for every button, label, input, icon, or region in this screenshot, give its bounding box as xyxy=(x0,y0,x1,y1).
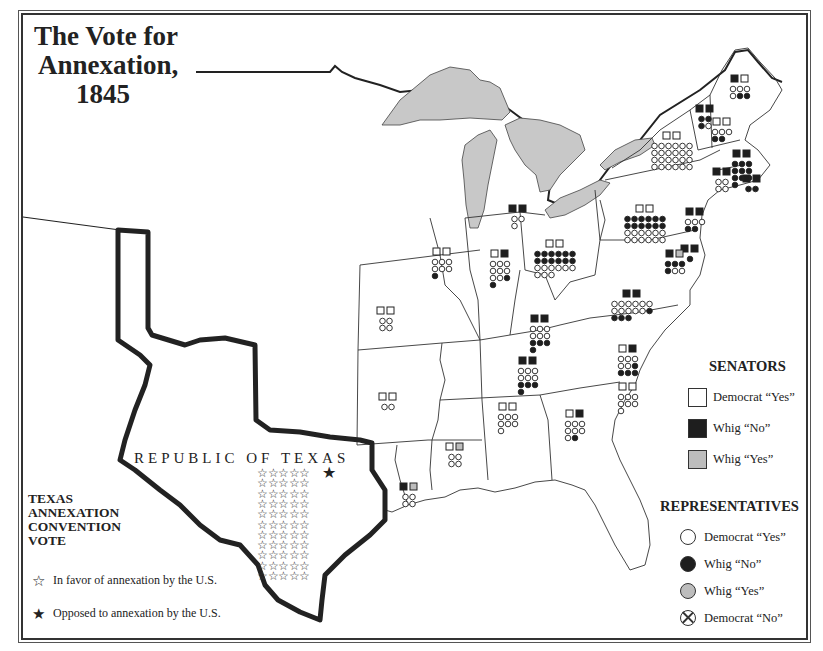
legend-opposed-label: Opposed to annexation by the U.S. xyxy=(53,606,221,621)
state-votes-north-carolina xyxy=(618,345,638,376)
representative-circle xyxy=(692,226,698,232)
representative-circle xyxy=(572,428,578,434)
senator-square xyxy=(741,75,748,82)
senator-square xyxy=(456,443,463,450)
representative-circle xyxy=(549,272,555,278)
state-votes-connecticut xyxy=(713,168,730,192)
representative-circle xyxy=(625,223,631,229)
representative-circle xyxy=(544,340,550,346)
tx-legend-line-2: ANNEXATION xyxy=(28,506,121,520)
representative-circle xyxy=(537,333,543,339)
representative-circle xyxy=(439,259,445,265)
representative-circle xyxy=(572,421,578,427)
crossed-circle-icon xyxy=(680,610,696,626)
representative-circle xyxy=(619,301,625,307)
representative-circle xyxy=(535,251,541,257)
state-votes-pennsylvania xyxy=(625,205,666,243)
legend-opposed: ★ Opposed to annexation by the U.S. xyxy=(32,606,221,621)
representative-circle xyxy=(712,129,718,135)
representative-circle xyxy=(744,86,750,92)
representative-circle xyxy=(535,258,541,264)
representative-circle xyxy=(490,268,496,274)
representative-circle xyxy=(699,123,705,129)
representative-circle xyxy=(537,340,543,346)
senator-square xyxy=(619,383,626,390)
representative-circle xyxy=(387,318,393,324)
representative-circle xyxy=(625,356,631,362)
black-square-icon xyxy=(688,419,707,438)
senator-square xyxy=(410,483,417,490)
representative-circle xyxy=(512,414,518,420)
tx-legend-line-1: TEXAS xyxy=(28,492,121,506)
representative-circle xyxy=(680,164,686,170)
senator-legend-dem-yes: Democrat “Yes” xyxy=(688,388,795,407)
senator-square xyxy=(387,307,394,314)
representative-circle xyxy=(660,230,666,236)
representative-circle xyxy=(730,86,736,92)
representative-circle xyxy=(490,282,496,288)
representative-circle xyxy=(542,272,548,278)
representative-circle xyxy=(632,363,638,369)
representative-circle xyxy=(653,237,659,243)
senator-square xyxy=(546,240,553,247)
representative-circle xyxy=(530,347,536,353)
senator-square xyxy=(529,357,536,364)
representative-circle xyxy=(726,129,732,135)
representative-circle xyxy=(410,501,416,507)
senator-square xyxy=(723,118,730,125)
representative-circle xyxy=(665,261,671,267)
map-title: The Vote for Annexation, 1845 xyxy=(34,22,178,109)
state-votes-indiana xyxy=(490,250,510,288)
state-votes-new-hampshire xyxy=(712,118,732,142)
senator-square xyxy=(691,245,698,252)
us-states xyxy=(357,48,782,570)
representative-circle xyxy=(446,266,452,272)
senator-square xyxy=(433,248,440,255)
gray-square-icon xyxy=(688,450,707,469)
representative-circle xyxy=(646,223,652,229)
representative-circle xyxy=(565,428,571,434)
representative-circle xyxy=(542,265,548,271)
representative-circle xyxy=(380,318,386,324)
representative-circle xyxy=(612,308,618,314)
representative-circle xyxy=(525,382,531,388)
state-votes-arkansas xyxy=(379,393,396,410)
senator-square xyxy=(666,250,673,257)
representative-circle xyxy=(497,268,503,274)
representative-circle xyxy=(505,421,511,427)
representative-circle xyxy=(518,389,524,395)
representative-circle xyxy=(639,223,645,229)
state-votes-illinois xyxy=(432,248,452,279)
representative-circle xyxy=(625,216,631,222)
senator-square xyxy=(646,205,653,212)
representative-circle xyxy=(498,421,504,427)
representative-circle xyxy=(410,494,416,500)
title-line-3: 1845 xyxy=(34,80,178,109)
representative-circle xyxy=(666,164,672,170)
representative-circle xyxy=(626,301,632,307)
representative-circle xyxy=(737,93,743,99)
state-votes-vermont xyxy=(696,105,713,129)
senator-square xyxy=(723,168,730,175)
senator-square xyxy=(629,383,636,390)
representative-circle xyxy=(652,143,658,149)
representative-circle xyxy=(632,394,638,400)
state-votes-new-york xyxy=(652,132,693,170)
representative-circle xyxy=(449,454,455,460)
representative-circle xyxy=(612,315,618,321)
representative-circle xyxy=(692,219,698,225)
representative-circle xyxy=(403,494,409,500)
representative-circle xyxy=(563,265,569,271)
in-favor-star: ☆ xyxy=(257,569,268,583)
representative-circle xyxy=(639,230,645,236)
senator-square xyxy=(491,250,498,257)
representative-circle xyxy=(530,340,536,346)
senator-square xyxy=(636,205,643,212)
representative-circle xyxy=(626,315,632,321)
representative-circle xyxy=(456,461,462,467)
representative-circle xyxy=(679,261,685,267)
senator-square xyxy=(676,250,683,257)
representative-circle xyxy=(532,375,538,381)
representative-circle xyxy=(618,370,624,376)
representative-circle xyxy=(699,116,705,122)
